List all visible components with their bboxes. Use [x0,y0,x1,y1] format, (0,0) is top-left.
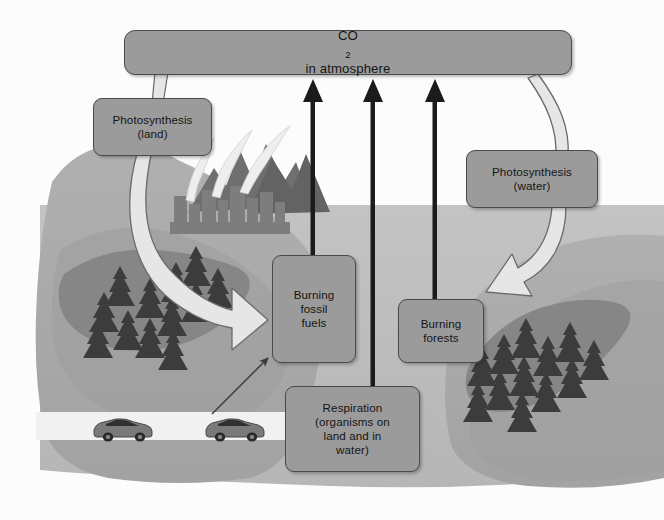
burning-forests-line2: forests [421,331,462,345]
box-co2-in-atmosphere[interactable]: CO2 in atmosphere [124,30,572,75]
box-co2-label: CO2 in atmosphere [306,28,391,77]
box-photosynthesis-land[interactable]: Photosynthesis (land) [93,98,212,156]
respiration-line2: (organisms on [315,415,390,429]
co2-subscript: 2 [345,49,350,60]
photosynthesis-water-line2: (water) [492,179,572,193]
box-photosynthesis-water[interactable]: Photosynthesis (water) [466,150,598,208]
photosynthesis-water-line1: Photosynthesis [492,165,572,179]
burning-fossil-line1: Burning [294,288,335,302]
respiration-line1: Respiration [315,401,390,415]
carbon-cycle-diagram: CO2 in atmosphere Photosynthesis (land) … [0,0,664,520]
box-burning-forests[interactable]: Burning forests [398,299,484,363]
burning-forests-line1: Burning [421,317,462,331]
respiration-line4: water) [315,443,390,457]
photosynthesis-land-line1: Photosynthesis [112,113,192,127]
respiration-line3: land and in [315,429,390,443]
photosynthesis-land-line2: (land) [112,127,192,141]
burning-fossil-line3: fuels [294,316,335,330]
box-burning-fossil-fuels[interactable]: Burning fossil fuels [272,255,356,363]
burning-fossil-line2: fossil [294,302,335,316]
box-respiration[interactable]: Respiration (organisms on land and in wa… [285,386,420,472]
